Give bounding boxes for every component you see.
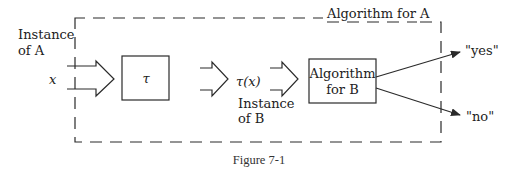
instance-b-label-line1: Instance: [238, 96, 295, 111]
output-no-label: "no": [466, 109, 494, 124]
input-block-arrow-icon: [67, 61, 114, 96]
algorithm-a-label: Algorithm for A: [326, 6, 430, 21]
instance-b-block-arrow-icon: [270, 62, 298, 96]
no-arrow-icon: [376, 88, 460, 115]
tau-x-text: τ(x): [236, 74, 261, 89]
instance-b-label-line2: of B: [238, 111, 264, 126]
input-x-symbol: x: [49, 72, 57, 87]
reduction-diagram: Algorithm for A Instance of A x τ τ(x) I…: [0, 0, 509, 171]
algorithm-b-label-line2: for B: [326, 82, 359, 97]
transform-output-block-arrow-icon: [200, 62, 228, 96]
yes-arrow-icon: [376, 52, 460, 77]
instance-a-label-line1: Instance: [18, 27, 75, 42]
instance-a-label-line2: of A: [18, 43, 45, 58]
algorithm-b-label-line1: Algorithm: [309, 66, 376, 81]
output-yes-label: "yes": [465, 43, 499, 58]
tau-label: τ: [142, 71, 150, 86]
tau-x-symbol: τ(x): [236, 74, 261, 89]
figure-caption: Figure 7-1: [233, 153, 285, 167]
